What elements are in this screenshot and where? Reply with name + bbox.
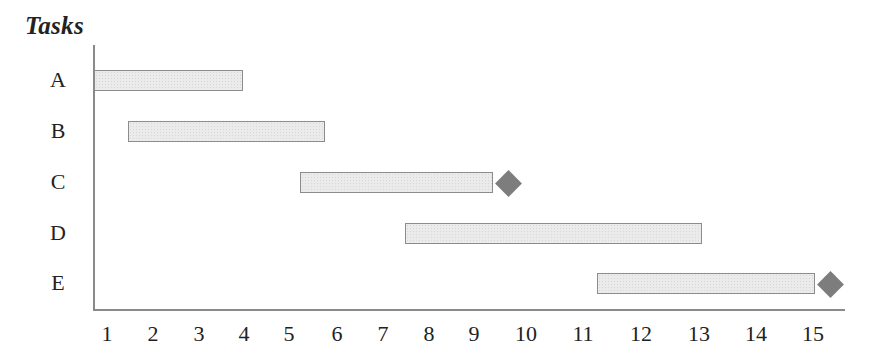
x-tick-label: 13 xyxy=(679,321,719,347)
x-tick-label: 15 xyxy=(793,321,833,347)
x-tick-label: 4 xyxy=(224,321,264,347)
x-tick-label: 5 xyxy=(269,321,309,347)
milestone-diamond-icon xyxy=(495,170,522,197)
task-label: C xyxy=(46,169,70,195)
x-tick-label: 1 xyxy=(87,321,127,347)
x-axis-line xyxy=(93,309,845,311)
task-label: A xyxy=(46,67,70,93)
x-tick-label: 2 xyxy=(133,321,173,347)
chart-title: Tasks xyxy=(25,12,84,40)
milestone-diamond-icon xyxy=(817,271,844,298)
x-tick-label: 12 xyxy=(621,321,661,347)
task-label: E xyxy=(46,270,70,296)
task-label: D xyxy=(46,220,70,246)
task-bar xyxy=(405,223,702,244)
x-tick-label: 8 xyxy=(409,321,449,347)
x-tick-label: 10 xyxy=(506,321,546,347)
task-label: B xyxy=(46,118,70,144)
x-tick-label: 7 xyxy=(363,321,403,347)
x-tick-label: 9 xyxy=(454,321,494,347)
task-bar xyxy=(94,70,243,91)
x-tick-label: 14 xyxy=(736,321,776,347)
task-bar xyxy=(597,273,815,294)
task-bar xyxy=(128,121,325,142)
x-tick-label: 6 xyxy=(317,321,357,347)
x-tick-label: 11 xyxy=(563,321,603,347)
task-bar xyxy=(300,172,493,193)
x-tick-label: 3 xyxy=(179,321,219,347)
